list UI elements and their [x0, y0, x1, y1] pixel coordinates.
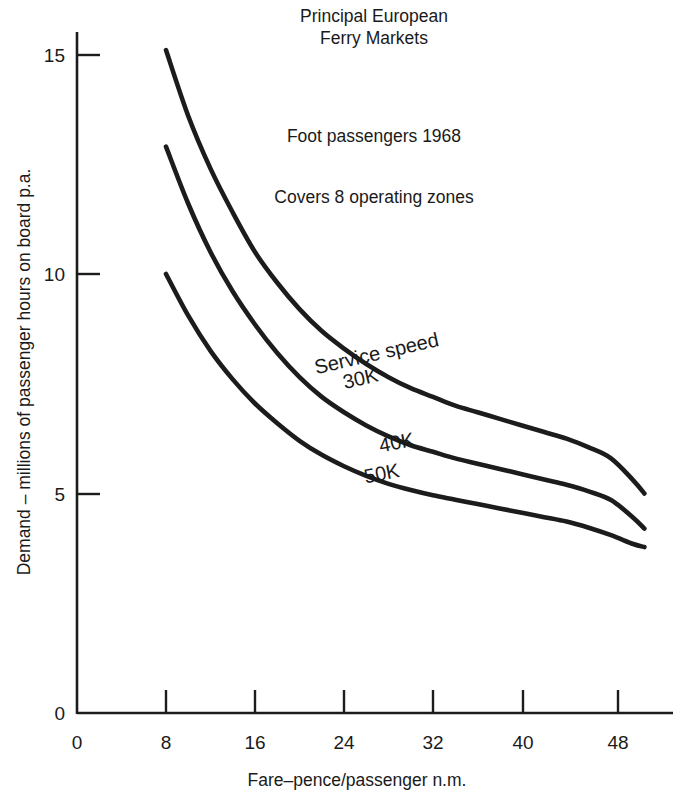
x-axis-title: Fare–pence/passenger n.m. [248, 770, 467, 790]
x-tick-label-16: 16 [244, 732, 265, 753]
x-tick-label-32: 32 [422, 732, 443, 753]
series-curve-30k [166, 50, 644, 493]
x-tick-label-8: 8 [161, 732, 172, 753]
y-tick-label-0: 0 [54, 703, 65, 724]
chart-figure: 15 10 5 0 0 8 16 24 32 40 48 Fare–pence/… [0, 0, 681, 795]
y-axis-title: Demand – millions of passenger hours on … [14, 169, 34, 576]
chart-subtitle: Foot passengers 1968 [287, 126, 461, 146]
series-curve-50k [166, 274, 644, 547]
y-tick-label-15: 15 [44, 45, 65, 66]
series-label-50k: 50K [362, 459, 402, 488]
chart-canvas: 15 10 5 0 0 8 16 24 32 40 48 Fare–pence/… [0, 0, 681, 795]
annotation-block: Principal European Ferry Markets Foot pa… [274, 6, 474, 207]
x-tick-label-40: 40 [512, 732, 533, 753]
series-labels-group: Service speed 30K 40K 50K [312, 328, 440, 487]
series-group [166, 50, 644, 547]
chart-note: Covers 8 operating zones [274, 187, 474, 207]
x-tick-label-0: 0 [72, 732, 83, 753]
y-tick-label-5: 5 [54, 484, 65, 505]
x-tick-label-48: 48 [607, 732, 628, 753]
chart-title-line-2: Ferry Markets [320, 28, 428, 48]
x-tick-label-24: 24 [333, 732, 355, 753]
y-tick-label-10: 10 [44, 264, 65, 285]
x-tick-labels: 0 8 16 24 32 40 48 [72, 732, 629, 753]
chart-title-line-1: Principal European [300, 6, 448, 26]
y-ticks-group [77, 55, 100, 494]
y-tick-labels: 15 10 5 0 [44, 45, 65, 724]
x-ticks-group [166, 690, 618, 713]
